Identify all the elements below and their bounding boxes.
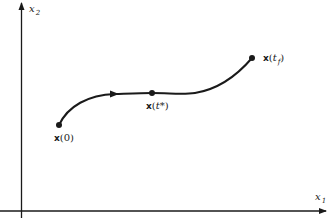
x2-axis-label: x2 [29, 4, 40, 14]
intermediate-point [149, 90, 155, 96]
trajectory-curve [59, 58, 252, 125]
direction-arrow-icon [110, 91, 119, 98]
start-close-paren: ) [70, 132, 74, 143]
intermediate-arg: t* [156, 100, 165, 111]
x1-label-subscript: 1 [322, 197, 326, 205]
final-arg: t [273, 52, 277, 63]
start-point [56, 122, 62, 128]
x1-axis-label: x1 [315, 192, 326, 202]
intermediate-close-paren: ) [165, 100, 169, 111]
x2-label-subscript: 2 [36, 9, 40, 17]
final-arg-subscript: f [278, 58, 281, 66]
final-point-label: x(tf) [263, 53, 284, 63]
final-point [249, 55, 255, 61]
x1-label-main: x [315, 191, 321, 202]
final-close-paren: ) [280, 52, 284, 63]
x2-label-main: x [29, 3, 35, 14]
intermediate-point-label: x(t*) [146, 101, 169, 111]
start-point-label: x(0) [54, 133, 74, 143]
